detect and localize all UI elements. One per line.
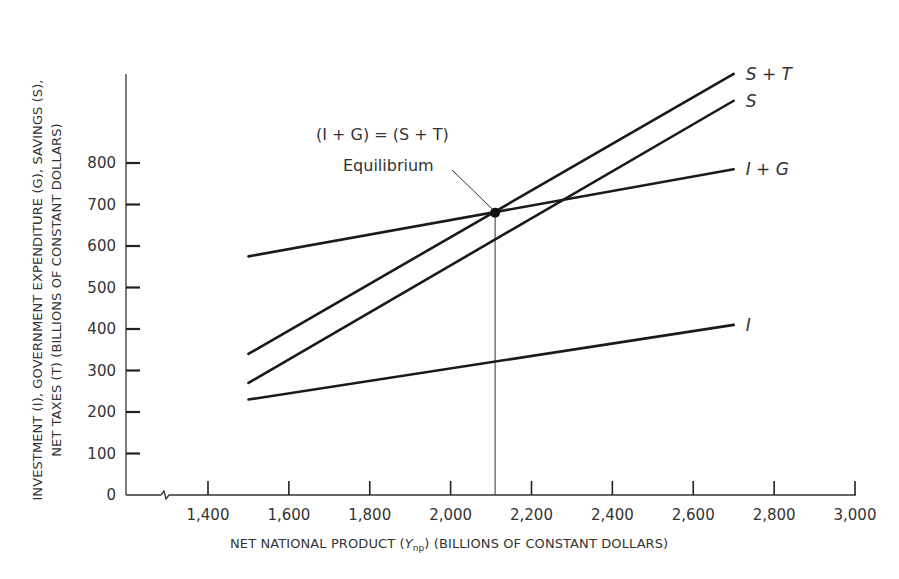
x-tick-label: 1,400 — [187, 506, 230, 524]
y-axis-title: INVESTMENT (I), GOVERNMENT EXPENDITURE (… — [30, 79, 64, 500]
y-tick-label: 700 — [87, 196, 116, 214]
x-tick-label: 2,600 — [672, 506, 715, 524]
series-label: I + G — [746, 159, 789, 179]
x-tick-label: 2,000 — [429, 506, 472, 524]
y-tick-label: 200 — [87, 403, 116, 421]
series-label: S + T — [746, 64, 794, 84]
svg-text:INVESTMENT (I), GOVERNMENT EXP: INVESTMENT (I), GOVERNMENT EXPENDITURE (… — [30, 79, 45, 500]
axis-break-icon — [161, 491, 169, 499]
x-tick-label: 3,000 — [834, 506, 877, 524]
x-tick-label: 2,800 — [753, 506, 796, 524]
x-tick-label: 2,200 — [510, 506, 553, 524]
x-tick-label: 2,400 — [591, 506, 634, 524]
y-ticks: 0100200300400500600700800 — [87, 154, 140, 504]
series-label: I — [746, 315, 751, 335]
y-tick-label: 100 — [87, 445, 116, 463]
equilibrium-point — [490, 208, 500, 218]
equilibrium-condition-label: (I + G) = (S + T) — [316, 125, 449, 144]
svg-text:NET TAXES (T) (BILLIONS OF CON: NET TAXES (T) (BILLIONS OF CONSTANT DOLL… — [49, 123, 64, 456]
y-tick-label: 800 — [87, 154, 116, 172]
x-tick-label: 1,600 — [267, 506, 310, 524]
y-tick-label: 300 — [87, 362, 116, 380]
y-tick-label: 400 — [87, 320, 116, 338]
x-axis-title: NET NATIONAL PRODUCT (Ynp) (BILLIONS OF … — [230, 536, 668, 553]
equilibrium-leader-line — [452, 170, 493, 210]
series-lines — [248, 74, 733, 400]
x-axis — [126, 491, 856, 499]
equilibrium-label: Equilibrium — [343, 156, 434, 175]
x-ticks: 1,4001,6001,8002,0002,2002,4002,6002,800… — [187, 481, 877, 524]
y-tick-label: 600 — [87, 237, 116, 255]
x-tick-label: 1,800 — [348, 506, 391, 524]
y-tick-label: 0 — [106, 486, 116, 504]
series-labels: S + TSI + GI — [746, 64, 794, 335]
series-label: S — [746, 91, 757, 111]
series-line — [248, 325, 733, 400]
chart: 0100200300400500600700800 1,4001,6001,80… — [0, 0, 899, 579]
y-tick-label: 500 — [87, 279, 116, 297]
